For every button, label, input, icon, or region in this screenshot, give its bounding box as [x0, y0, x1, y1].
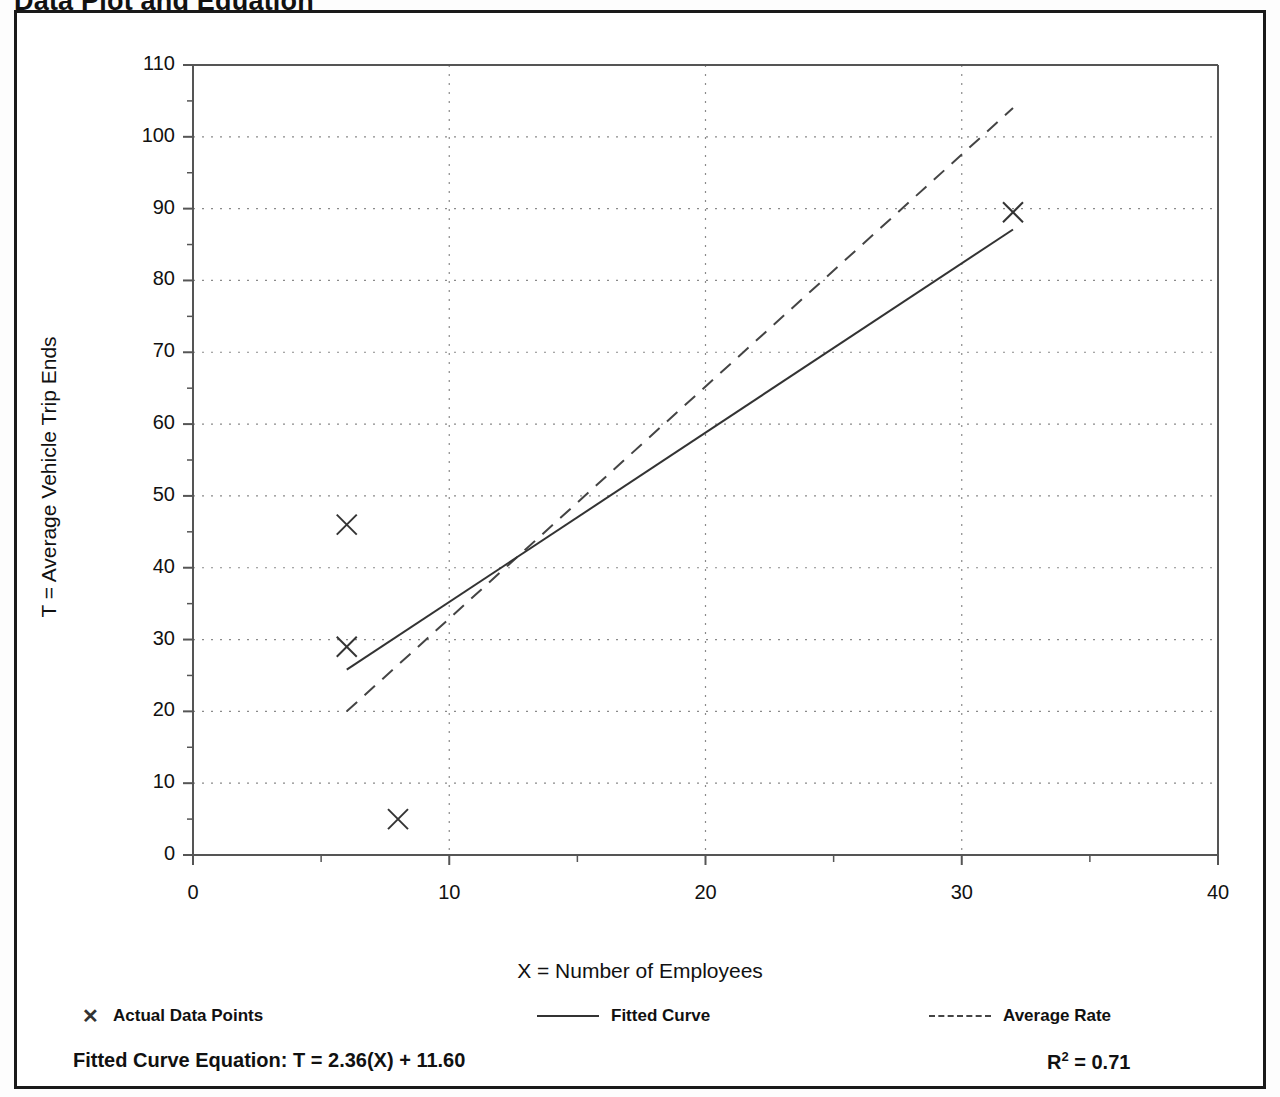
equation-row: Fitted Curve Equation: T = 2.36(X) + 11.… [17, 1049, 1263, 1083]
solid-line-icon [537, 1009, 599, 1023]
r-squared-exponent: 2 [1061, 1049, 1068, 1064]
x-tick-label: 10 [419, 881, 479, 904]
dashed-line-icon [929, 1009, 991, 1023]
y-tick-label: 20 [125, 698, 175, 721]
x-tick-label: 20 [676, 881, 736, 904]
legend-label-average-rate: Average Rate [1003, 1006, 1111, 1026]
chart-tickmarks [183, 65, 1218, 865]
legend-item-fitted-curve: Fitted Curve [537, 1006, 710, 1026]
x-tick-label: 40 [1188, 881, 1248, 904]
legend-label-actual-data-points: Actual Data Points [113, 1006, 263, 1026]
chart-frame: 0102030405060708090100110 010203040 T = … [14, 10, 1266, 1089]
chart-gridlines [193, 65, 1218, 855]
series-fitted-curve-line [347, 229, 1013, 669]
legend-label-fitted-curve: Fitted Curve [611, 1006, 710, 1026]
y-tick-label: 70 [125, 339, 175, 362]
series-actual-data-points [337, 202, 1023, 829]
x-axis-title: X = Number of Employees [17, 959, 1263, 983]
y-tick-label: 30 [125, 627, 175, 650]
y-axis-title: T = Average Vehicle Trip Ends [37, 267, 61, 687]
slide-page: Data Plot and Equation 01020304050607080… [0, 0, 1280, 1097]
r-squared-value: R2 = 0.71 [1047, 1049, 1130, 1074]
x-tick-label: 30 [932, 881, 992, 904]
y-tick-label: 80 [125, 267, 175, 290]
y-tick-label: 60 [125, 411, 175, 434]
y-tick-label: 40 [125, 555, 175, 578]
r-squared-prefix: R [1047, 1051, 1061, 1073]
fitted-curve-equation: Fitted Curve Equation: T = 2.36(X) + 11.… [73, 1049, 465, 1072]
y-tick-label: 110 [125, 52, 175, 75]
r-squared-suffix: = 0.71 [1069, 1051, 1131, 1073]
series-average-rate-line [347, 108, 1013, 711]
legend-item-actual-data-points: ✕ Actual Data Points [79, 1006, 263, 1026]
legend-item-average-rate: Average Rate [929, 1006, 1111, 1026]
chart-plot-svg [17, 13, 1263, 1086]
x-marker-icon: ✕ [79, 1007, 101, 1025]
y-tick-label: 10 [125, 770, 175, 793]
chart-legend: ✕ Actual Data Points Fitted Curve Averag… [17, 1006, 1263, 1040]
y-tick-label: 100 [125, 124, 175, 147]
x-tick-label: 0 [163, 881, 223, 904]
y-tick-label: 0 [125, 842, 175, 865]
y-tick-label: 50 [125, 483, 175, 506]
y-tick-label: 90 [125, 196, 175, 219]
